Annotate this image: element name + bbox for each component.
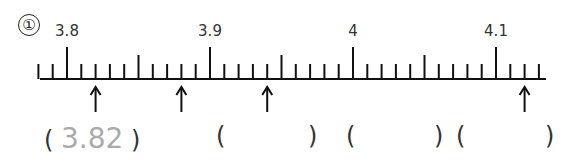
answer-box-1[interactable]: ( 3.82 ) <box>44 122 140 155</box>
answer-value-1: 3.82 <box>61 122 123 155</box>
answer-box-2[interactable]: ( <box>216 122 225 150</box>
answer-box-2-close: ) <box>308 122 317 150</box>
answer-box-4[interactable]: ( <box>456 122 465 150</box>
answer-box-3-close: ) <box>434 122 443 150</box>
answer-box-3[interactable]: ( <box>346 122 355 150</box>
major-label: 4 <box>348 22 358 40</box>
major-label: 3.9 <box>198 22 222 40</box>
major-label: 4.1 <box>484 22 508 40</box>
answer-box-4-close: ) <box>545 122 554 150</box>
major-label: 3.8 <box>55 22 79 40</box>
